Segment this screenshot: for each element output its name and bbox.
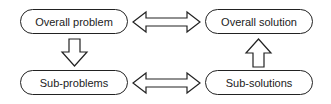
arrow-up-icon bbox=[246, 39, 271, 67]
node-sub-problems: Sub-problems bbox=[20, 70, 128, 95]
double-arrow-icon bbox=[133, 12, 200, 32]
node-sub-solutions: Sub-solutions bbox=[205, 70, 313, 95]
node-label: Overall problem bbox=[35, 16, 113, 28]
node-overall-problem: Overall problem bbox=[20, 9, 128, 34]
node-label: Sub-problems bbox=[40, 77, 108, 89]
node-label: Sub-solutions bbox=[226, 77, 293, 89]
arrow-down-icon bbox=[62, 39, 87, 66]
double-arrow-icon bbox=[133, 73, 200, 93]
node-overall-solution: Overall solution bbox=[205, 9, 313, 34]
node-label: Overall solution bbox=[221, 16, 297, 28]
